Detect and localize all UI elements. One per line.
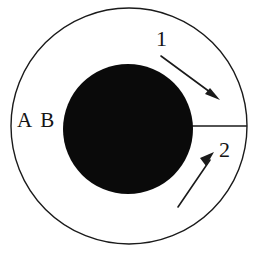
arrow-2-head	[200, 152, 214, 166]
label-region-2: 2	[219, 139, 230, 161]
label-ab: A B	[17, 110, 56, 131]
inner-filled-circle	[63, 64, 193, 194]
label-region-1: 1	[156, 28, 167, 50]
figure-container: A B 1 2	[0, 0, 262, 254]
arrow-2-shaft	[178, 160, 210, 207]
